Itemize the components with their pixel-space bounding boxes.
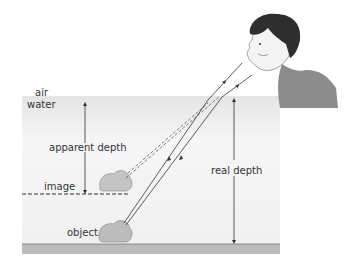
observer-person — [247, 14, 338, 108]
object-label: object — [67, 228, 98, 238]
image-label: image — [44, 182, 75, 192]
real-depth-label: real depth — [211, 166, 262, 176]
water-label: water — [27, 100, 56, 110]
apparent-depth-label: apparent depth — [49, 143, 127, 153]
air-label: air — [35, 88, 48, 98]
refraction-diagram — [0, 0, 351, 273]
tank-floor — [22, 244, 280, 254]
